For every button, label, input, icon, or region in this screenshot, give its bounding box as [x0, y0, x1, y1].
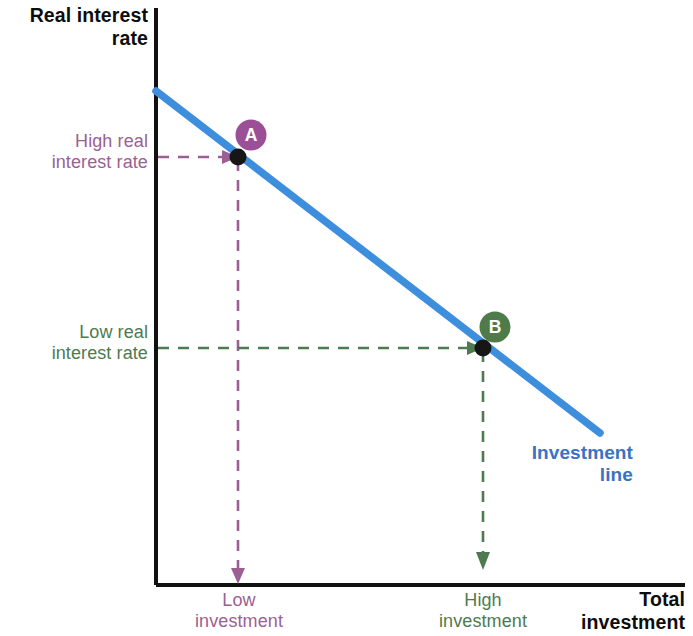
- low-investment-label: Low investment: [168, 590, 310, 632]
- investment-line-diagram: [0, 0, 693, 636]
- investment-line-label: Investment line: [458, 442, 633, 487]
- low-real-interest-rate-label: Low real interest rate: [2, 322, 148, 364]
- investment-line: [156, 91, 600, 433]
- x-axis-title: Total investment: [533, 588, 685, 634]
- point-b-badge-letter: B: [480, 312, 510, 342]
- point-b-marker: [475, 340, 492, 357]
- high-investment-label: High investment: [412, 590, 554, 632]
- point-b-vertical-arrowhead: [476, 552, 490, 570]
- point-a-marker: [230, 149, 247, 166]
- point-a-vertical-arrowhead: [231, 568, 245, 584]
- high-real-interest-rate-label: High real interest rate: [2, 131, 148, 173]
- point-a-badge-letter: A: [236, 120, 266, 150]
- y-axis-title: Real interest rate: [8, 4, 148, 50]
